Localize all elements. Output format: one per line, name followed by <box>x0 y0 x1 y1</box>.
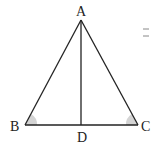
triangle-diagram: A B C D <box>0 0 151 146</box>
angle-mark-c <box>126 114 138 125</box>
side-ac <box>81 20 138 125</box>
label-b: B <box>10 119 19 134</box>
side-ab <box>25 20 81 125</box>
label-a: A <box>76 4 87 19</box>
label-d: D <box>77 130 87 145</box>
angle-mark-b <box>25 114 37 125</box>
label-c: C <box>141 119 150 134</box>
